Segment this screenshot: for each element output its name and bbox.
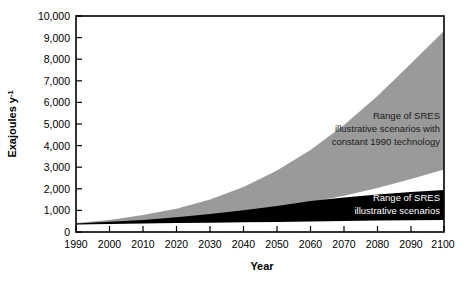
- y-tick-label: 2,000: [44, 183, 70, 195]
- y-tick-label: 4,000: [44, 140, 70, 152]
- annotation-constant-technology-line-2: illustrative scenarios with: [335, 123, 440, 134]
- annotation-illustrative-scenarios-line-2: illustrative scenarios: [354, 205, 440, 216]
- y-tick-label: 8,000: [44, 53, 70, 65]
- x-tick-label: 1990: [64, 238, 88, 250]
- y-axis-title-group: Exajoules y-1: [6, 90, 19, 157]
- x-tick-label: 2020: [165, 238, 189, 250]
- x-tick-label: 2050: [265, 238, 289, 250]
- y-tick-label: 9,000: [44, 32, 70, 44]
- y-tick-label: 3,000: [44, 161, 70, 173]
- annotation-illustrative-scenarios-line-1: Range of SRES: [373, 192, 440, 203]
- y-axis-title: Exajoules y: [6, 96, 18, 157]
- x-tick-label: 2070: [332, 238, 356, 250]
- x-tick-label: 2030: [198, 238, 222, 250]
- svg-text:Exajoules y-1: Exajoules y-1: [6, 90, 19, 157]
- y-tick-label: 1,000: [44, 204, 70, 216]
- x-tick-label: 2100: [431, 238, 455, 250]
- y-tick-label: 5,000: [44, 118, 70, 130]
- x-axis-title: Year: [250, 260, 274, 272]
- x-tick-label: 2060: [299, 238, 323, 250]
- energy-scenarios-area-chart: 0 1,000 2,000 3,000 4,000 5,000 6,000 7,…: [0, 0, 467, 288]
- y-tick-label: 7,000: [44, 75, 70, 87]
- x-tick-label: 2000: [98, 238, 122, 250]
- x-tick-label: 2080: [366, 238, 390, 250]
- y-tick-label: 10,000: [38, 10, 70, 22]
- x-tick-label: 2090: [399, 238, 423, 250]
- x-tick-label: 2040: [232, 238, 256, 250]
- y-tick-label: 0: [64, 226, 70, 238]
- y-axis-title-superscript: -1: [6, 90, 15, 97]
- y-tick-label: 6,000: [44, 96, 70, 108]
- chart-figure: 0 1,000 2,000 3,000 4,000 5,000 6,000 7,…: [0, 0, 467, 288]
- annotation-constant-technology-line-3: constant 1990 technology: [332, 136, 441, 147]
- x-tick-label: 2010: [131, 238, 155, 250]
- annotation-constant-technology-line-1: Range of SRES: [373, 110, 440, 121]
